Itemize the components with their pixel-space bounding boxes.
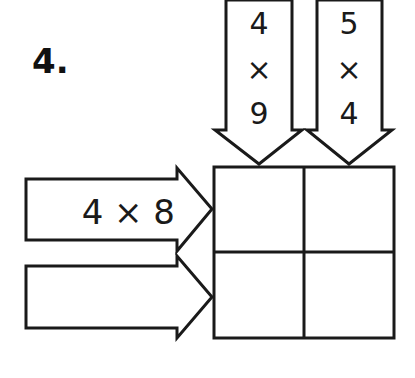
problem-number: 4. [32,41,69,81]
row-arrow-2 [26,256,212,338]
multiplication-grid-worksheet: 4. 4 × 9 5 × 4 4 × 8 [0,0,415,378]
grid-cell-r2c2[interactable] [304,252,394,338]
column-arrow-1-bottom: 9 [249,96,268,131]
row-arrow-1: 4 × 8 [26,168,212,251]
row-arrow-1-expression: 4 × 8 [82,192,175,232]
column-arrow-2-bottom: 4 [339,96,358,131]
column-arrow-1-operator: × [246,52,271,87]
grid-cell-r1c2[interactable] [304,167,394,252]
column-arrow-1-top: 4 [249,6,268,41]
column-arrow-2: 5 × 4 [307,0,392,164]
grid-cell-r2c1[interactable] [214,252,304,338]
right-arrow-icon [26,256,212,338]
column-arrow-1: 4 × 9 [215,0,302,164]
grid-cell-r1c1[interactable] [214,167,304,252]
column-arrow-2-top: 5 [339,6,358,41]
column-arrow-2-operator: × [336,52,361,87]
answer-grid [214,167,394,338]
